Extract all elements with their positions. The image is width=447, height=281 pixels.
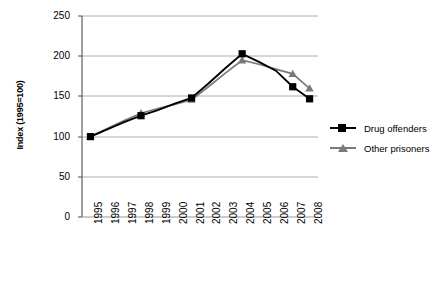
x-tick-label: 2008 xyxy=(314,202,324,224)
x-tick-label: 1999 xyxy=(162,202,172,224)
x-tick-label: 2002 xyxy=(212,202,222,224)
x-tick-label: 2003 xyxy=(229,202,239,224)
x-tick-label: 1995 xyxy=(94,202,104,224)
legend-key-drug-offenders xyxy=(330,122,356,134)
square-data-marker xyxy=(188,94,195,101)
x-tick-label: 1998 xyxy=(145,202,155,224)
x-tick-label: 1997 xyxy=(128,202,138,224)
square-data-marker xyxy=(306,95,313,102)
square-data-marker xyxy=(239,50,246,57)
series-layer xyxy=(86,50,314,140)
square-data-marker xyxy=(289,83,296,90)
x-tick-label: 2001 xyxy=(196,202,206,224)
gridlines xyxy=(82,16,318,177)
x-tick-label: 2004 xyxy=(246,202,256,224)
legend-item-other-prisoners: Other prisoners xyxy=(330,138,445,158)
x-tick-label: 2006 xyxy=(280,202,290,224)
x-tick-label: 2000 xyxy=(179,202,189,224)
legend-item-drug-offenders: Drug offenders xyxy=(330,118,445,138)
legend-key-other-prisoners xyxy=(330,142,356,154)
triangle-marker-icon xyxy=(338,144,348,152)
square-marker-icon xyxy=(338,124,346,132)
line-chart: Index (1995=100) 0 50 100 150 200 250 xyxy=(0,0,447,281)
legend-label: Other prisoners xyxy=(356,143,429,154)
square-data-marker xyxy=(87,133,94,140)
legend-label: Drug offenders xyxy=(356,123,427,134)
series-line xyxy=(90,54,309,137)
x-tick-label: 2007 xyxy=(297,202,307,224)
x-tick-label: 1996 xyxy=(111,202,121,224)
chart-legend: Drug offenders Other prisoners xyxy=(330,118,445,158)
x-tick-label: 2005 xyxy=(263,202,273,224)
square-data-marker xyxy=(137,112,144,119)
